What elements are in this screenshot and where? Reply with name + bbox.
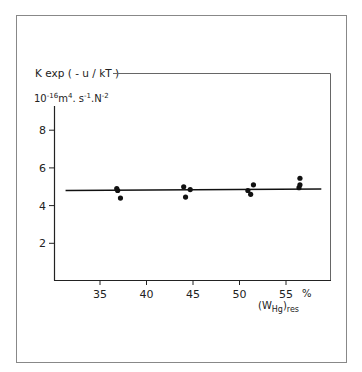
fit-line (66, 189, 322, 191)
data-point (118, 195, 123, 200)
data-series (66, 176, 322, 201)
data-point (297, 176, 302, 181)
y-axis-label-line1: K exp ( - u / kT ) (35, 67, 119, 79)
data-point (248, 192, 253, 197)
x-ticks: 3540455055 (93, 281, 293, 302)
x-tick-label: 50 (233, 288, 247, 301)
y-tick-label: 4 (39, 200, 46, 213)
y-ticks: 2468 (39, 124, 55, 250)
y-tick-label: 2 (39, 237, 46, 250)
data-point (251, 182, 256, 187)
x-tick-label: 40 (140, 288, 154, 301)
x-axis-unit: % (302, 288, 312, 299)
x-tick-label: 35 (93, 288, 107, 301)
data-point (181, 184, 186, 189)
y-tick-label: 6 (39, 162, 46, 175)
chart: K exp ( - u / kT ) 10-16m4. s-1.N-2 2468… (0, 0, 362, 372)
x-tick-label: 45 (186, 288, 200, 301)
x-axis-label: (WHg)res (258, 300, 299, 314)
y-axis-units: 10-16m4. s-1.N-2 (34, 92, 109, 104)
data-point (183, 195, 188, 200)
y-tick-label: 8 (39, 124, 46, 137)
